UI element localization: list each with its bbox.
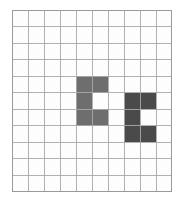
left-shape-cell (92, 76, 108, 93)
right-shape-cell (140, 93, 156, 110)
right-shape-cell (124, 109, 140, 126)
grid-canvas (12, 10, 172, 192)
left-shape-cell (76, 93, 92, 110)
puzzle-figure (0, 0, 186, 207)
grid-container (12, 10, 172, 192)
right-shape-cell (140, 126, 156, 143)
left-shape-cell (92, 109, 108, 126)
left-shape-cell (76, 76, 92, 93)
left-shape-cell (76, 109, 92, 126)
caption-text (24, 0, 144, 6)
right-shape-cell (124, 126, 140, 143)
right-shape-cell (124, 93, 140, 110)
